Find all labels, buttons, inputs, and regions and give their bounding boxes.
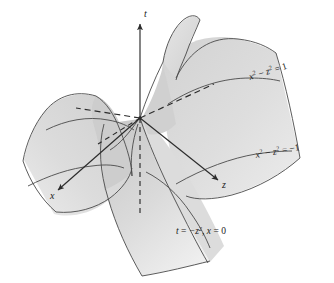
surface-group: [24, 17, 300, 276]
origin-point: [138, 116, 141, 119]
z-axis-label: z: [221, 179, 226, 190]
saddle-surface-diagram: t x z x2 − z2 = 1 x2 − z2 = −1 t = −z2, …: [0, 0, 334, 283]
figure-container: t x z x2 − z2 = 1 x2 − z2 = −1 t = −z2, …: [0, 0, 334, 283]
x-axis-label: x: [49, 190, 55, 201]
t-axis-label: t: [144, 8, 147, 19]
